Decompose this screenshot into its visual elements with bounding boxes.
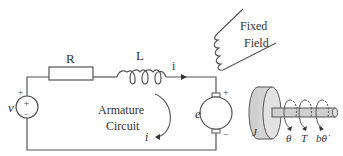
- damping-label: bθ̇: [316, 132, 331, 144]
- resistor: [49, 67, 93, 80]
- loop-label-line2: Circuit: [106, 119, 140, 133]
- torque-label: T: [301, 132, 308, 144]
- loop-current-arrow-icon: [155, 94, 170, 137]
- field-label-line2: Field: [244, 36, 269, 50]
- motor-minus: −: [223, 129, 228, 139]
- field-label-line1: Fixed: [240, 19, 267, 33]
- source-label: v: [8, 100, 14, 115]
- inductor-label: L: [136, 48, 144, 63]
- loop-arrowhead-icon: [155, 134, 160, 140]
- source-plus-outer: +: [18, 87, 23, 97]
- inductor: [117, 70, 166, 84]
- dc-motor-diagram: R L i + + − v Armature Circuit i e + − F…: [0, 0, 343, 156]
- resistor-label: R: [66, 51, 75, 66]
- motor-emf-label: e: [195, 106, 201, 121]
- source-minus: −: [24, 110, 29, 119]
- motor: [200, 93, 232, 133]
- loop-label-line1: Armature: [98, 103, 144, 117]
- current-arrow-icon: [181, 74, 187, 80]
- damping-arrow-icon: [319, 126, 324, 131]
- angle-label: θ: [286, 132, 292, 144]
- loop-current-label: i: [145, 130, 148, 144]
- current-label-top: i: [172, 59, 176, 73]
- shaft: [272, 108, 338, 117]
- source-plus-inner: +: [24, 98, 29, 108]
- motor-plus: +: [223, 87, 229, 98]
